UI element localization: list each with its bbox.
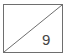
cell-number: 9 — [42, 32, 50, 47]
diagonal-line-icon — [4, 5, 62, 52]
diagonal-cell: 9 — [3, 4, 63, 53]
